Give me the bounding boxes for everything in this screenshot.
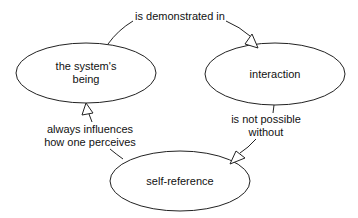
node-label-line: self-reference [146, 175, 213, 188]
edge-label-line: always influences [44, 123, 136, 136]
edge-line-always-influences-b [89, 114, 92, 122]
edge-line-demonstrated-in-a [108, 21, 133, 44]
edge-label-line: is demonstrated in [135, 10, 225, 23]
open-arrowhead-icon [82, 103, 93, 115]
edge-label-line: is not possible [231, 113, 301, 126]
node-self-reference[interactable]: self-reference [146, 175, 213, 188]
open-arrowhead-icon [230, 151, 245, 164]
edge-line-not-possible-without-b [240, 139, 256, 153]
edge-label-always-influences: always influences how one perceives [44, 123, 136, 149]
node-systems-being[interactable]: the system's being [56, 60, 117, 86]
edge-label-not-possible-without: is not possible without [231, 113, 301, 139]
edge-label-line: how one perceives [44, 136, 136, 149]
node-label-line: the system's [56, 60, 117, 73]
edge-line-not-possible-without-a [273, 105, 274, 113]
node-label-line: interaction [250, 68, 301, 81]
edge-label-line: without [231, 126, 301, 139]
edge-line-always-influences-a [110, 149, 123, 159]
concept-map-canvas: the system's being interaction self-refe… [0, 0, 358, 218]
edge-line-demonstrated-in-b [226, 21, 250, 36]
edge-label-demonstrated-in: is demonstrated in [135, 10, 225, 23]
node-interaction[interactable]: interaction [250, 68, 301, 81]
node-label-line: being [56, 73, 117, 86]
